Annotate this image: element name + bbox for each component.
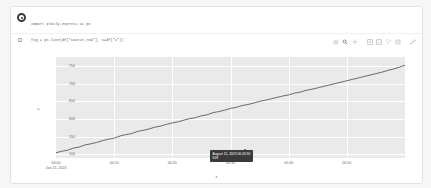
x-tick-label: 00:00Jan 15, 2023 — [46, 161, 67, 170]
autoscale-icon[interactable] — [386, 39, 392, 45]
zoom-in-icon[interactable] — [367, 39, 373, 45]
x-tick-label: 00:50 — [342, 161, 351, 166]
plotly-modebar[interactable] — [333, 39, 417, 45]
tooltip-value: 618 — [213, 156, 251, 160]
plotly-chart[interactable]: 750700650600550500 00:00Jan 15, 202300:1… — [11, 49, 422, 182]
x-tick-label: 00:40 — [284, 161, 293, 166]
notebook-output-card: import plotly.express as px fig = px.lin… — [10, 6, 423, 184]
x-tick-label: 00:10 — [110, 161, 119, 166]
reset-axes-icon[interactable] — [395, 39, 401, 45]
y-axis-label: y — [36, 108, 40, 110]
zoom-out-icon[interactable] — [376, 39, 382, 45]
plotly-logo-icon[interactable] — [410, 39, 416, 45]
hover-tooltip: August 15, 2023 00:24:30 618 — [210, 150, 253, 162]
camera-icon[interactable] — [333, 39, 339, 45]
zoom-icon[interactable] — [342, 39, 348, 45]
code-line: import plotly.express as px — [31, 22, 418, 27]
x-axis-label: x — [11, 175, 422, 179]
tooltip-date: August 15, 2023 00:24:30 — [213, 152, 251, 156]
x-tick-label: 00:20 — [168, 161, 177, 166]
screenshot-root: import plotly.express as px fig = px.lin… — [0, 0, 431, 188]
pan-icon[interactable] — [352, 39, 358, 45]
line-trace — [56, 57, 405, 158]
run-cell-icon[interactable] — [17, 13, 26, 22]
output-marker: D — [18, 37, 22, 43]
code-cell[interactable]: import plotly.express as px fig = px.lin… — [11, 7, 422, 34]
